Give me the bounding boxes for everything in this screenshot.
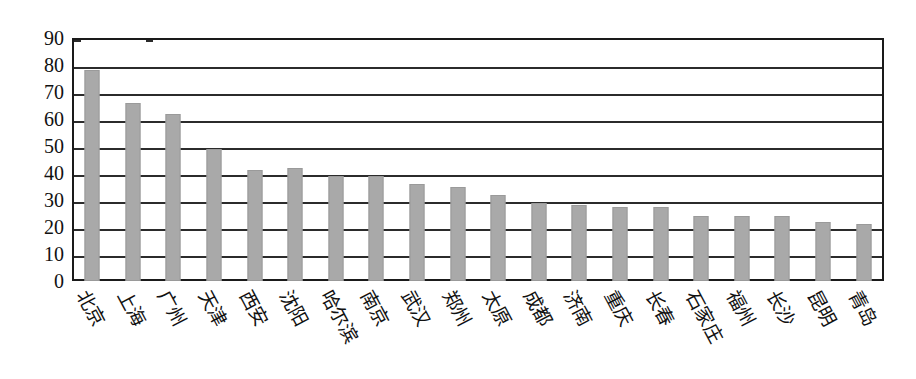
bar-slot [478,38,519,281]
x-axis-label-slot: 南京 [356,285,397,377]
x-axis-label-slot: 西安 [234,285,275,377]
x-axis-label-slot: 上海 [113,285,154,377]
x-axis-tick-label: 福州 [723,287,758,329]
y-axis-tick-label: 20 [4,217,64,237]
x-axis-label-slot: 福州 [722,285,763,377]
bar-slot [681,38,722,281]
x-axis-tick-label: 郑州 [439,287,474,329]
y-axis-tick-label: 60 [4,109,64,129]
bar[interactable] [450,187,465,282]
x-axis-tick-label: 济南 [561,287,596,329]
bar[interactable] [328,176,343,281]
y-axis-tick-label: 40 [4,163,64,183]
bar-slot [803,38,844,281]
bar[interactable] [734,216,749,281]
bar-slot [722,38,763,281]
bar-slot [153,38,194,281]
bar[interactable] [572,205,587,281]
y-axis-labels: 9080706050403020100 [0,38,64,281]
bar[interactable] [207,149,222,281]
bar[interactable] [491,195,506,281]
bar-slot [194,38,235,281]
x-axis-label-slot: 太原 [478,285,519,377]
y-axis-tick-label: 0 [4,271,64,291]
x-axis-label-slot: 青岛 [843,285,884,377]
bar-slot [559,38,600,281]
bars-layer [72,38,884,281]
bar-slot [600,38,641,281]
bar[interactable] [166,114,181,281]
x-axis-label-slot: 重庆 [600,285,641,377]
x-axis-labels: 北京上海广州天津西安沈阳哈尔滨南京武汉郑州太原成都济南重庆长春石家庄福州长沙昆明… [72,285,884,377]
x-axis-tick-label: 天津 [195,287,230,329]
bar-slot [843,38,884,281]
x-axis-tick-label: 上海 [114,287,149,329]
x-axis-tick-label: 青岛 [845,287,880,329]
x-axis-label-slot: 长春 [640,285,681,377]
x-axis-label-slot: 天津 [194,285,235,377]
y-axis-tick-label: 30 [4,190,64,210]
x-axis-label-slot: 成都 [519,285,560,377]
y-axis-tick-label: 50 [4,136,64,156]
x-axis-tick-label: 石家庄 [683,287,727,346]
y-axis-tick-label: 90 [4,28,64,48]
x-axis-tick-label: 长沙 [764,287,799,329]
x-axis-tick-label: 太原 [480,287,515,329]
bar[interactable] [410,184,425,281]
bar[interactable] [85,70,100,281]
x-axis-tick-label: 武汉 [398,287,433,329]
x-axis-label-slot: 长沙 [762,285,803,377]
bar-slot [275,38,316,281]
bar-slot [640,38,681,281]
bar[interactable] [531,203,546,281]
bar-slot [762,38,803,281]
x-axis-tick-label: 长春 [642,287,677,329]
bar[interactable] [125,103,140,281]
bar[interactable] [694,216,709,281]
x-axis-label-slot: 广州 [153,285,194,377]
x-axis-tick-label: 北京 [74,287,109,329]
y-axis-tick-label: 80 [4,55,64,75]
bar-chart: 9080706050403020100 北京上海广州天津西安沈阳哈尔滨南京武汉郑… [0,0,916,379]
x-axis-label-slot: 郑州 [437,285,478,377]
bar[interactable] [288,168,303,281]
bar[interactable] [369,176,384,281]
bar[interactable] [856,224,871,281]
x-axis-tick-label: 昆明 [804,287,839,329]
x-axis-tick-label: 西安 [236,287,271,329]
x-axis-label-slot: 昆明 [803,285,844,377]
bar-slot [72,38,113,281]
x-axis-label-slot: 沈阳 [275,285,316,377]
bar-slot [397,38,438,281]
bar[interactable] [816,222,831,281]
x-axis-tick-label: 南京 [358,287,393,329]
x-axis-tick-label: 沈阳 [277,287,312,329]
y-axis-tick-label: 10 [4,244,64,264]
x-axis-tick-label: 广州 [155,287,190,329]
bar[interactable] [653,207,668,281]
x-axis-label-slot: 石家庄 [681,285,722,377]
x-axis-label-slot: 武汉 [397,285,438,377]
x-axis-tick-label: 哈尔滨 [317,287,361,346]
bar-slot [437,38,478,281]
x-axis-label-slot: 哈尔滨 [316,285,357,377]
bar[interactable] [613,207,628,281]
bar-slot [356,38,397,281]
bar-slot [113,38,154,281]
x-axis-tick-label: 成都 [520,287,555,329]
bar-slot [519,38,560,281]
x-axis-label-slot: 北京 [72,285,113,377]
x-axis-label-slot: 济南 [559,285,600,377]
bar[interactable] [775,216,790,281]
y-axis-tick-label: 70 [4,82,64,102]
bar[interactable] [247,170,262,281]
bar-slot [316,38,357,281]
bar-slot [234,38,275,281]
x-axis-tick-label: 重庆 [601,287,636,329]
